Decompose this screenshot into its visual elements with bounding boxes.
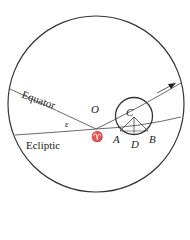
- point-d-label: D: [131, 139, 139, 150]
- ecliptic-label: Ecliptic: [26, 140, 60, 151]
- point-a-label: A: [113, 134, 120, 145]
- vernal-equinox-label: ♈: [91, 132, 103, 142]
- point-c-label: C: [126, 107, 133, 118]
- line-c-a: [120, 117, 134, 131]
- point-o-label: O: [91, 104, 99, 115]
- obliquity-epsilon-label: ε: [65, 120, 69, 129]
- point-b-label: B: [149, 134, 156, 145]
